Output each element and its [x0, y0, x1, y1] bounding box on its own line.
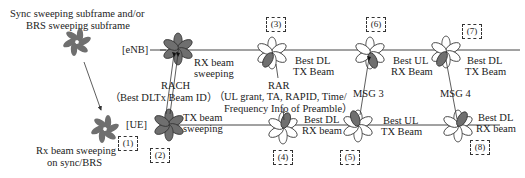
rx-beam-sweeping-line2: sweeping	[194, 68, 234, 79]
step-2-box: (2)	[150, 148, 170, 163]
best-ul-rx-beam-line2: RX Beam	[391, 66, 433, 77]
step-1-box: (1)	[118, 136, 138, 151]
best-dl-tx-beam-2-line1: Best DL	[467, 55, 502, 66]
sync-sweeping-icon	[62, 28, 92, 56]
best-dl-rx-beam-1-line1: Best DL	[304, 114, 339, 125]
rar-detail-line2: Frequency Info of Preamble）	[224, 103, 352, 114]
tx-beam-sweeping-line2: sweeping	[183, 123, 223, 134]
rar-label: RAR	[268, 80, 290, 91]
rach-label: RACH	[161, 80, 190, 91]
best-ul-tx-beam-line2: TX Beam	[381, 126, 422, 137]
enb-label: [eNB]	[122, 44, 148, 55]
rx-caption-line2: on sync/BRS	[47, 157, 102, 168]
enb-best-dl-tx-flower	[256, 37, 288, 69]
rx-caption-line1: Rx beam sweeping	[36, 145, 116, 156]
ue-best-ul-tx-flower	[342, 110, 374, 142]
step-6-box: (6)	[366, 17, 386, 32]
rx-sweeping-icon	[90, 115, 120, 143]
rach-beam-procedure-diagram: Sync sweeping subframe and/or BRS sweepi…	[0, 0, 525, 178]
best-dl-rx-beam-2-line1: Best DL	[478, 112, 513, 123]
rach-detail: （Best DLTx Beam ID）	[110, 92, 217, 103]
ue-best-dl-rx-flower-2	[442, 110, 474, 142]
step-8-box: (8)	[470, 140, 490, 155]
msg4-label: MSG 4	[440, 88, 471, 99]
rx-beam-sweeping-line1: RX beam	[194, 57, 234, 68]
sync-caption-line2: BRS sweeping subframe	[26, 20, 130, 31]
best-dl-rx-beam-1-line2: RX beam	[302, 125, 342, 136]
tx-beam-sweeping-line1: TX beam	[183, 112, 222, 123]
best-ul-tx-beam-line1: Best UL	[383, 115, 418, 126]
step-4-box: (4)	[273, 150, 293, 165]
legend-arrow	[84, 62, 101, 110]
msg3-label: MSG 3	[353, 88, 384, 99]
sync-caption-line1: Sync sweeping subframe and/or	[10, 8, 144, 19]
step-7-box: (7)	[462, 24, 482, 39]
best-ul-rx-beam-line1: Best UL	[393, 55, 428, 66]
best-dl-tx-beam-2-line2: TX Beam	[465, 66, 506, 77]
best-dl-tx-beam-1-line1: Best DL	[295, 55, 330, 66]
ue-label: [UE]	[126, 119, 147, 130]
enb-best-ul-rx-flower	[354, 37, 386, 69]
rar-detail-line1: （UL grant, TA, RAPID, Time/	[214, 91, 347, 102]
best-dl-rx-beam-2-line2: RX beam	[476, 123, 516, 134]
enb-rx-sweeping-flower	[162, 33, 194, 65]
ue-best-dl-rx-flower	[267, 112, 299, 144]
step-5-box: (5)	[340, 150, 360, 165]
best-dl-tx-beam-1-line2: TX Beam	[293, 66, 334, 77]
enb-best-dl-tx-flower-2	[430, 36, 462, 68]
step-3-box: (3)	[266, 17, 286, 32]
